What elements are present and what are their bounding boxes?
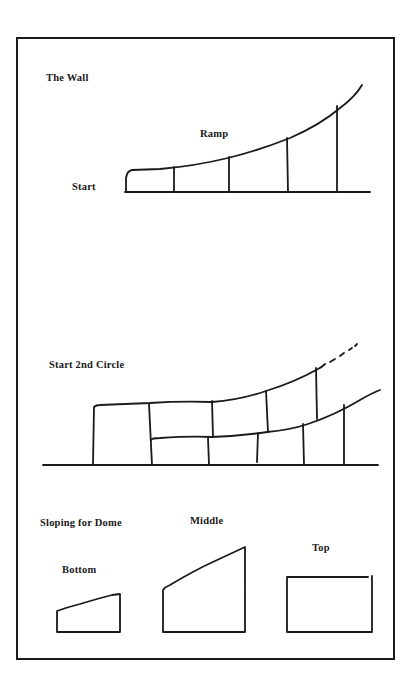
- label-sloping-for-dome: Sloping for Dome: [40, 517, 122, 528]
- label-top: Top: [312, 542, 330, 553]
- wall-diagram-drawing: [0, 0, 417, 685]
- wall-ramp-figure: [125, 85, 370, 192]
- dome-blocks-figure: [57, 547, 372, 632]
- label-middle: Middle: [190, 515, 223, 526]
- top-block: [287, 576, 372, 632]
- label-the-wall: The Wall: [46, 72, 89, 83]
- bottom-block: [57, 594, 120, 632]
- label-ramp: Ramp: [200, 128, 228, 139]
- label-start-2nd-circle: Start 2nd Circle: [49, 359, 124, 370]
- label-start: Start: [72, 181, 96, 192]
- middle-block: [163, 547, 245, 632]
- label-bottom: Bottom: [62, 564, 96, 575]
